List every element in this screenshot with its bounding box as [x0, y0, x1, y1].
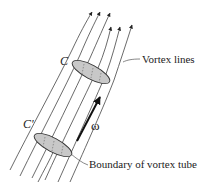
label-vortex-lines: Vortex lines [142, 53, 195, 65]
label-omega: ω [91, 118, 100, 133]
vortex-lines-leader [123, 59, 140, 62]
cross-section-c-prime [31, 129, 75, 161]
vortex-lines [10, 12, 132, 182]
boundary-leader [71, 154, 88, 165]
vortex-tube-diagram: C C' ω Vortex lines Boundary of vortex t… [0, 0, 208, 183]
label-c-prime: C' [23, 117, 34, 131]
label-boundary: Boundary of vortex tube [89, 158, 197, 170]
label-c: C [60, 54, 69, 68]
